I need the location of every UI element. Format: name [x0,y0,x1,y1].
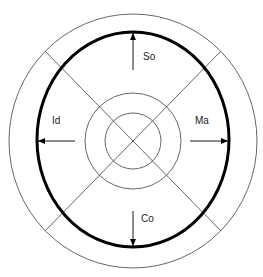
concentric-diagram: So Id Ma Co [0,0,263,277]
label-left: Id [52,115,60,126]
label-bottom: Co [141,213,154,224]
label-right: Ma [195,115,209,126]
label-top: So [143,51,156,62]
